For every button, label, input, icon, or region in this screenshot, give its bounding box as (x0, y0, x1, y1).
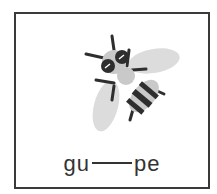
word-suffix: pe (134, 151, 160, 176)
fill-in-word: gupe (16, 151, 208, 177)
word-blank[interactable] (92, 162, 132, 164)
bee-icon (72, 28, 182, 138)
worksheet-card: gupe (14, 12, 210, 189)
word-prefix: gu (64, 151, 90, 176)
